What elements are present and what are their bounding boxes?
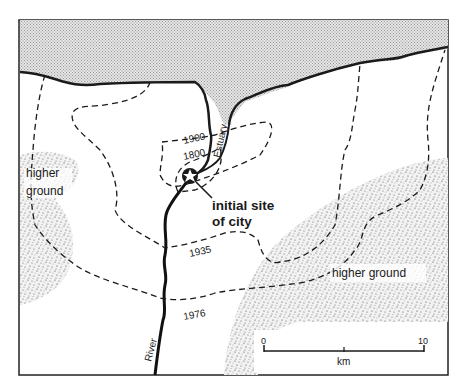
scale-bar: 0 10 km bbox=[254, 330, 444, 372]
site-label-line1: initial site bbox=[212, 198, 275, 213]
higher-ground-left-line2: ground bbox=[26, 184, 63, 198]
scale-start: 0 bbox=[261, 336, 266, 346]
site-label-line2: of city bbox=[212, 214, 252, 229]
scale-unit: km bbox=[337, 356, 350, 367]
initial-site-star-icon bbox=[182, 168, 198, 184]
higher-ground-right-label: higher ground bbox=[332, 266, 406, 280]
higher-ground-left-line1: higher bbox=[26, 166, 59, 180]
city-growth-map: 1900 1800 1935 1976 Estuary River initia… bbox=[0, 0, 462, 390]
scale-end: 10 bbox=[418, 336, 428, 346]
